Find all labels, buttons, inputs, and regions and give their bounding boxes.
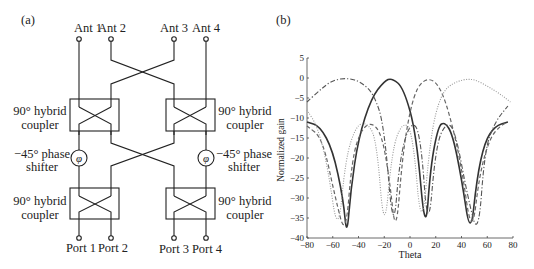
right-phase-label-2: shifter [228,160,261,174]
port-2-terminal [109,236,114,241]
x-tick-label: 20 [431,240,441,250]
y-tick-label: −25 [290,173,305,183]
y-tick-label: 5 [300,53,305,63]
bottom-right-coupler-label-2: coupler [226,208,264,222]
panel-a-label: (a) [21,13,35,27]
y-ticks: 50−5−10−15−20−25−30−35−40 [290,53,309,243]
port-4-terminal [204,236,209,241]
ant-2-label: Ant 2 [98,21,126,35]
ant-3-label: Ant 3 [160,21,188,35]
y-tick-label: −10 [290,113,305,123]
x-tick-label: 40 [457,240,467,250]
x-tick-label: −60 [326,240,341,250]
y-tick-label: −40 [290,233,305,243]
bottom-left-coupler-label-2: coupler [21,208,59,222]
port-3-label: Port 3 [159,242,189,256]
panel-b-label: (b) [276,13,291,27]
top-right-coupler-label-1: 90° hybrid [218,104,272,118]
y-tick-label: −35 [290,213,305,223]
port-4-label: Port 4 [192,242,223,256]
ant-4-label: Ant 4 [192,21,221,35]
port-3-terminal [172,236,177,241]
chart-series [307,79,510,227]
panel-a-beamforming-network [70,37,215,241]
ant-4-terminal [204,37,209,42]
top-right-coupler-label-2: coupler [226,118,264,132]
bottom-left-coupler-label-1: 90° hybrid [13,194,67,208]
y-tick-label: 0 [300,73,305,83]
port-2-label: Port 2 [98,241,128,255]
bottom-right-coupler-label-1: 90° hybrid [218,194,272,208]
left-phase-symbol: φ [76,152,82,164]
left-phase-label-2: shifter [26,160,59,174]
x-axis-label: Theta [399,249,422,260]
left-phase-label-1: −45° phase [14,147,71,161]
y-tick-label: −15 [290,133,305,143]
right-phase-symbol: φ [203,152,209,164]
series-line-4 [307,79,510,219]
right-phase-label-1: −45° phase [216,147,273,161]
y-tick-label: −20 [290,153,305,163]
figure: (a) Ant 1 Ant 2 Ant 3 Ant 4 90° hybrid c… [0,0,534,269]
top-left-coupler-label-1: 90° hybrid [13,104,67,118]
port-1-terminal [77,236,82,241]
y-tick-label: −30 [290,193,305,203]
y-tick-label: −5 [294,93,304,103]
top-left-coupler-label-2: coupler [21,118,59,132]
x-tick-label: −40 [351,240,366,250]
y-axis-label: Normalized gain [276,118,286,182]
ant-1-terminal [77,37,82,42]
x-tick-label: 60 [483,240,493,250]
ant-3-terminal [172,37,177,42]
port-1-label: Port 1 [66,241,96,255]
ant-2-terminal [109,37,114,42]
x-tick-label: −20 [377,240,392,250]
chart-axes [307,58,513,238]
x-tick-label: 80 [509,240,519,250]
